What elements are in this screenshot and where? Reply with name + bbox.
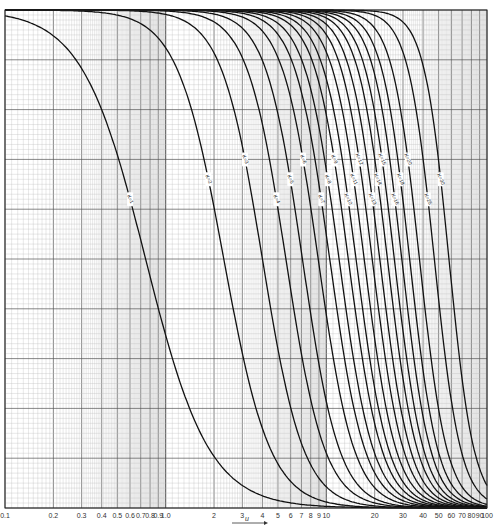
- grid: [5, 10, 487, 508]
- x-tick-label: 50: [435, 512, 443, 519]
- x-tick-label: 0.4: [97, 512, 107, 519]
- x-tick-label: 0.6: [125, 512, 135, 519]
- x-tick-label: 20: [371, 512, 379, 519]
- svg-text:u: u: [245, 515, 249, 522]
- x-tick-label: 2: [212, 512, 216, 519]
- x-tick-label: 1.0: [161, 512, 171, 519]
- x-tick-label: 8: [309, 512, 313, 519]
- x-tick-label: 9: [317, 512, 321, 519]
- x-tick-label: 10: [322, 512, 330, 519]
- x-tick-label: 80: [468, 512, 476, 519]
- curve: [5, 10, 487, 507]
- x-tick-label: 0.3: [77, 512, 87, 519]
- x-tick-label: 70: [458, 512, 466, 519]
- x-tick-label: 40: [419, 512, 427, 519]
- x-tick-label: 4: [260, 512, 264, 519]
- x-tick-label: 7: [299, 512, 303, 519]
- x-tick-label: 0.5: [112, 512, 122, 519]
- x-tick-label: 0.2: [48, 512, 58, 519]
- curve: [5, 10, 487, 486]
- x-tick-label: 5: [276, 512, 280, 519]
- x-tick-label: 100: [481, 512, 493, 519]
- x-tick-label: 0.1: [0, 512, 10, 519]
- x-tick-label: 3: [240, 512, 244, 519]
- curve: [5, 10, 487, 506]
- x-tick-label: 30: [399, 512, 407, 519]
- x-tick-label: 60: [447, 512, 455, 519]
- curve: [5, 10, 487, 504]
- x-tick-label: 6: [289, 512, 293, 519]
- chart: K=1K=2K=3K=4K=5K=6K=7K=8K=9K=10K=11K=12K…: [0, 0, 503, 532]
- curve: [5, 10, 487, 499]
